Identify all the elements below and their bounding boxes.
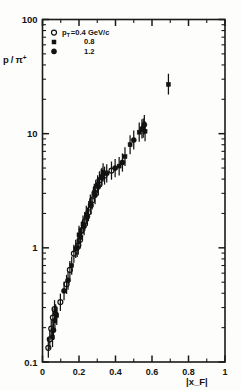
marker-filled-circle: [120, 160, 125, 165]
marker-filled-circle: [104, 171, 109, 176]
x-axis-title-text: |x_F|: [186, 376, 208, 387]
data-series: [46, 162, 114, 358]
legend-label: 1.2: [84, 47, 95, 56]
marker-filled-circle: [75, 245, 80, 250]
marker-filled-circle: [142, 122, 147, 127]
x-tick-label: 0.6: [146, 367, 159, 377]
marker-filled-circle: [96, 184, 101, 189]
marker-filled-circle: [85, 214, 90, 219]
legend-item: 1.2: [51, 47, 94, 56]
marker-filled-circle: [88, 203, 93, 208]
legend-item: pT=0.4 GeV/c: [52, 28, 110, 38]
x-tick-label: 1: [222, 367, 227, 377]
plot-frame: [43, 20, 226, 363]
y-axis-denominator-sup: +: [23, 54, 27, 61]
data-series: [51, 115, 147, 340]
marker-filled-circle: [51, 49, 56, 54]
marker-square: [123, 155, 127, 159]
y-axis-numerator: p: [3, 54, 9, 65]
marker-square: [70, 264, 74, 268]
legend-label: 0.8: [84, 37, 95, 46]
marker-square: [128, 143, 132, 147]
x-tick-label: 0.4: [109, 367, 122, 377]
plot-canvas: 0.111010000.20.40.60.81 p/π+ |x_F| pT=0.…: [0, 0, 241, 390]
marker-square: [52, 40, 56, 44]
y-tick-label: 10: [27, 128, 38, 139]
legend-item: 0.8: [52, 37, 95, 46]
marker-open-circle: [52, 30, 57, 35]
marker-filled-circle: [113, 165, 118, 170]
marker-square: [166, 82, 170, 86]
marker-filled-circle: [65, 278, 70, 283]
marker-filled-circle: [53, 311, 58, 316]
y-axis-title-text: p/π+: [3, 54, 27, 66]
x-tick-label: 0: [40, 367, 45, 377]
y-tick-label: 1: [32, 242, 38, 253]
data-series: [51, 74, 171, 347]
marker-filled-circle: [51, 328, 56, 333]
x-axis-title: |x_F|: [186, 376, 208, 387]
y-axis-slash: /: [11, 54, 14, 65]
data-points-layer: [46, 74, 171, 358]
marker-filled-circle: [92, 192, 97, 197]
y-tick-label: 100: [22, 14, 38, 25]
y-tick-label: 0.1: [24, 357, 38, 368]
marker-filled-circle: [82, 224, 87, 229]
marker-filled-circle: [99, 174, 104, 179]
marker-filled-circle: [61, 288, 66, 293]
y-axis-title: p/π+: [3, 54, 27, 66]
marker-filled-circle: [78, 234, 83, 239]
x-tick-label: 0.2: [73, 367, 86, 377]
legend: pT=0.4 GeV/c0.81.2: [51, 28, 109, 56]
legend-value-text: =0.4 GeV/c: [71, 28, 110, 37]
figure-panel: 0.111010000.20.40.60.81 p/π+ |x_F| pT=0.…: [0, 0, 241, 390]
marker-filled-circle: [131, 137, 136, 142]
